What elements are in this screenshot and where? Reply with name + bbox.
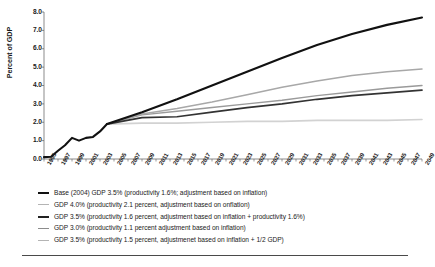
legend-line-swatch (38, 240, 49, 241)
y-tick-label: 0.0 (20, 156, 42, 163)
legend-item-label: GDP 4.0% (productivity 2.1 percent, adju… (54, 201, 250, 209)
legend-item-label: GDP 3.5% (productivity 1.6 percent, adju… (54, 213, 305, 221)
chart-legend: Base (2004) GDP 3.5% (productivity 1.6%;… (0, 185, 430, 247)
bottom-divider (22, 255, 408, 256)
line-chart-svg (44, 12, 422, 159)
series-canvas (44, 12, 422, 159)
y-tick-label: 8.0 (20, 9, 42, 16)
y-tick-label: 1.0 (20, 137, 42, 144)
series-line (107, 69, 422, 124)
y-tick-label: 7.0 (20, 27, 42, 34)
y-axis-title: Percent of GDP (5, 46, 14, 60)
axis-lines (42, 12, 423, 159)
legend-line-swatch (38, 228, 49, 229)
y-tick-label: 2.0 (20, 119, 42, 126)
legend-line-swatch (38, 216, 49, 218)
legend-item-label: GDP 3.5% (productivity 1.5 percent, adju… (54, 236, 284, 244)
x-axis-tick-labels: 1995199719992001200320052007200920112013… (44, 160, 424, 185)
legend-item[interactable]: GDP 3.0% (productivity 1.1 percent adjus… (38, 222, 246, 234)
legend-item[interactable]: Base (2004) GDP 3.5% (productivity 1.6%;… (38, 187, 267, 199)
legend-line-swatch (38, 204, 49, 205)
y-tick-label: 3.0 (20, 101, 42, 108)
y-axis-title-text: Percent of GDP (5, 8, 14, 98)
legend-line-swatch (38, 192, 49, 194)
y-tick-label: 4.0 (20, 82, 42, 89)
chart-plot-area: Percent of GDP 0.01.02.03.04.05.06.07.08… (0, 0, 430, 185)
x-tick-label: 2049 (424, 152, 435, 166)
y-tick-label: 5.0 (20, 64, 42, 71)
legend-item-label: Base (2004) GDP 3.5% (productivity 1.6%;… (54, 189, 267, 197)
series-line (107, 119, 422, 124)
y-tick-label: 6.0 (20, 45, 42, 52)
legend-item-label: GDP 3.0% (productivity 1.1 percent adjus… (54, 224, 246, 232)
legend-item[interactable]: GDP 3.5% (productivity 1.6 percent, adju… (38, 211, 305, 223)
series-line (107, 18, 422, 125)
y-axis-tick-labels: 0.01.02.03.04.05.06.07.08.0 (16, 0, 42, 171)
legend-item[interactable]: GDP 3.5% (productivity 1.5 percent, adju… (38, 234, 284, 246)
data-series-group (44, 18, 422, 158)
legend-item[interactable]: GDP 4.0% (productivity 2.1 percent, adju… (38, 199, 250, 211)
